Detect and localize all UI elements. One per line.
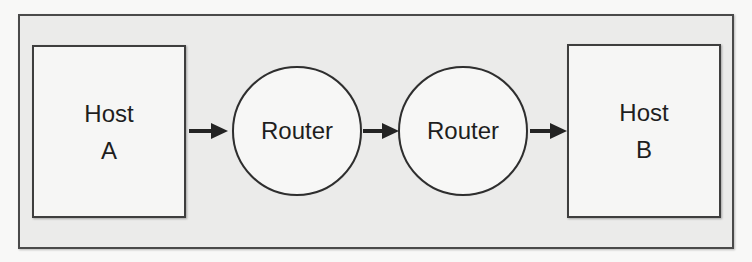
host-b-label-line1: Host <box>619 94 668 131</box>
host-b-node: Host B <box>567 44 721 218</box>
arrow-right-icon <box>189 122 228 140</box>
router-2-node: Router <box>398 66 528 196</box>
host-a-label-line1: Host <box>84 95 133 132</box>
host-b-label-line2: B <box>636 131 652 168</box>
host-a-node: Host A <box>32 45 186 218</box>
router-2-label: Router <box>427 117 499 145</box>
arrow-right-icon <box>530 122 567 140</box>
router-1-node: Router <box>232 66 362 196</box>
arrow-right-icon <box>363 122 399 140</box>
host-a-label-line2: A <box>101 132 117 169</box>
router-1-label: Router <box>261 117 333 145</box>
